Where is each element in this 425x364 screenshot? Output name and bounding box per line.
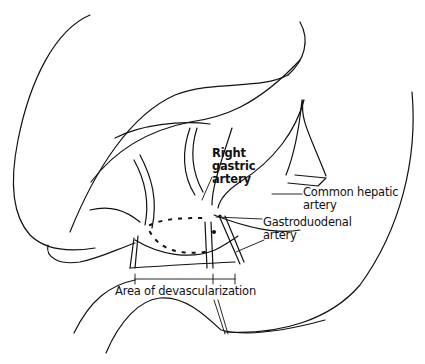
label-line: artery [303, 199, 398, 212]
pylorus-right-edge [205, 222, 213, 268]
stomach-lower-contour [48, 243, 135, 263]
label-right-gastric-artery: Right gastric artery [212, 147, 255, 186]
leader-gastroduodenal-2 [236, 240, 264, 252]
stomach-inner-band [91, 60, 300, 182]
vessel-left-2 [140, 155, 154, 228]
vessel-left-1 [134, 160, 147, 225]
label-area-of-devascularization: Area of devascularization [115, 285, 256, 298]
label-line: artery [263, 229, 352, 242]
ligature-dots-top [150, 218, 205, 225]
vessel-center-right [193, 128, 203, 192]
label-common-hepatic-artery: Common hepatic artery [303, 186, 398, 212]
lower-duct-line [214, 300, 228, 334]
area-dimension-line [135, 274, 235, 284]
label-line: Area of devascularization [115, 285, 256, 298]
clamp-dot-1 [212, 230, 216, 234]
pylorus-curve [135, 236, 238, 255]
ligature-dots-bottom [150, 232, 205, 253]
label-line: artery [212, 173, 255, 186]
anatomy-diagram: Right gastric artery Common hepatic arte… [0, 0, 425, 364]
outer-organ-contour [14, 15, 95, 250]
liver-top-curve [288, 22, 305, 75]
common-hepatic-vertical [286, 100, 302, 175]
vessel-left-3 [90, 208, 140, 222]
label-gastroduodenal-artery: Gastroduodenal artery [263, 216, 352, 242]
common-hepatic-branch-top [302, 100, 326, 176]
leader-right-gastric [202, 177, 212, 200]
pylorus-bottom [130, 262, 235, 268]
